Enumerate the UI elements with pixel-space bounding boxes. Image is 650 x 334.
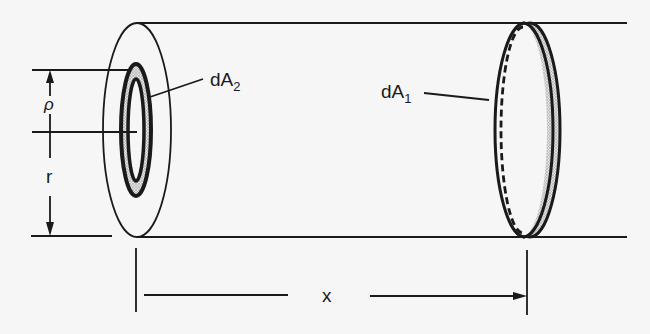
x-arrow-right-icon xyxy=(513,292,527,300)
diagram-svg: dA2 dA1 ρ r x xyxy=(0,0,650,334)
rho-label: ρ xyxy=(43,95,54,114)
dA2-label: dA2 xyxy=(210,69,240,94)
rho-arrow-up-icon xyxy=(46,70,54,83)
dA1-label: dA1 xyxy=(381,81,411,106)
r-label: r xyxy=(46,166,53,187)
dA1-leader xyxy=(424,93,489,100)
x-label: x xyxy=(322,285,332,306)
r-arrow-down-icon xyxy=(46,222,54,236)
axial-dimension xyxy=(136,248,527,315)
tube-radiation-diagram: dA2 dA1 ρ r x xyxy=(0,0,650,334)
dA2-annulus xyxy=(121,64,151,196)
dA1-ring xyxy=(495,23,560,237)
